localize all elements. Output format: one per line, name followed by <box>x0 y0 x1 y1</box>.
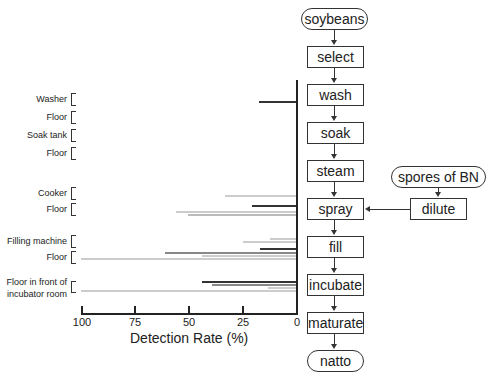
flow-step-maturate: maturate <box>307 312 364 334</box>
flow-input-spores: spores of BN <box>391 166 486 188</box>
bar-incubator-4 <box>81 290 297 292</box>
bar-floor-fill-4 <box>81 258 297 260</box>
label-floor-spray: Floor <box>46 204 67 214</box>
flow-arrow <box>334 68 335 78</box>
label-floor-fill: Floor <box>46 252 67 262</box>
bracket <box>71 251 76 264</box>
bar-floor-fill-3 <box>202 255 297 257</box>
flow-arrow <box>334 144 335 154</box>
arrow-down-icon <box>331 268 337 273</box>
bracket <box>71 203 76 216</box>
flow-step-wash: wash <box>307 84 364 106</box>
arrow-down-icon <box>331 40 337 45</box>
label-filling-machine: Filling machine <box>7 236 67 246</box>
label-floor-soak: Floor <box>46 148 67 158</box>
bar-floor-spray-3 <box>188 214 297 216</box>
bracket <box>71 93 76 106</box>
arrow-down-icon <box>331 344 337 349</box>
flow-arrow <box>334 296 335 306</box>
bar-floor-wash <box>259 101 297 103</box>
flow-arrow <box>334 106 335 116</box>
bar-floor-fill-2 <box>165 252 297 254</box>
label-washer: Washer <box>36 94 67 104</box>
label-soak-tank: Soak tank <box>27 130 67 140</box>
bracket <box>71 281 76 293</box>
flow-step-incubate: incubate <box>307 274 364 296</box>
arrow-down-icon <box>331 154 337 159</box>
flow-step-dilute: dilute <box>410 198 467 220</box>
bar-filling-2 <box>243 241 297 243</box>
flow-step-steam: steam <box>307 160 364 182</box>
x-tick <box>242 306 244 313</box>
bar-incubator-1 <box>202 281 297 283</box>
x-axis-line <box>81 313 298 315</box>
arrow-down-icon <box>435 192 441 197</box>
label-incubator-line1: Floor in front of <box>6 277 67 287</box>
x-tick <box>188 306 190 313</box>
label-cooker: Cooker <box>38 188 67 198</box>
flow-arrow <box>334 182 335 192</box>
x-tick <box>81 306 83 313</box>
flow-arrow <box>334 220 335 230</box>
y-axis-line <box>296 80 298 314</box>
bar-floor-fill-1 <box>260 248 297 250</box>
bracket <box>71 111 76 124</box>
flow-start-soybeans: soybeans <box>301 8 368 30</box>
arrow-down-icon <box>331 230 337 235</box>
flow-arrow-left <box>370 209 410 210</box>
label-floor-wash: Floor <box>46 112 67 122</box>
flow-step-soak: soak <box>307 122 364 144</box>
bracket <box>71 235 76 248</box>
flow-step-fill: fill <box>307 236 364 258</box>
bar-incubator-2 <box>212 284 297 286</box>
bracket <box>71 147 76 160</box>
flow-step-select: select <box>307 46 364 68</box>
flow-arrow <box>334 334 335 344</box>
arrow-down-icon <box>331 116 337 121</box>
x-tick-label-50: 50 <box>174 316 204 328</box>
bar-floor-spray-2 <box>176 211 297 213</box>
bracket <box>71 129 76 142</box>
bar-cooker <box>225 195 297 197</box>
x-tick-label-75: 75 <box>120 316 150 328</box>
x-axis-title: Detection Rate (%) <box>130 330 248 346</box>
label-incubator-line2: incubator room <box>7 289 67 299</box>
bar-filling-1 <box>270 238 297 240</box>
arrow-down-icon <box>331 78 337 83</box>
bar-incubator-3 <box>268 287 297 289</box>
arrow-down-icon <box>331 306 337 311</box>
bar-floor-spray-1 <box>252 205 297 207</box>
arrow-down-icon <box>331 192 337 197</box>
x-tick-label-100: 100 <box>67 316 97 328</box>
flow-end-natto: natto <box>307 350 364 372</box>
x-tick <box>134 306 136 313</box>
arrow-left-icon <box>365 206 370 212</box>
flow-step-spray: spray <box>307 198 364 220</box>
flow-arrow <box>334 258 335 268</box>
x-tick-label-25: 25 <box>228 316 258 328</box>
bracket <box>71 187 76 200</box>
flow-arrow <box>334 30 335 40</box>
